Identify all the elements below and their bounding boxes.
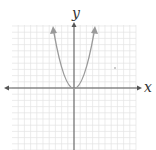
x-axis-label: x	[144, 79, 152, 95]
curve-left-arrow-icon	[50, 26, 57, 34]
curve-right-arrow-icon	[91, 26, 98, 34]
x-axis-right-arrow-icon	[137, 86, 142, 91]
y-axis-up-arrow-icon	[72, 22, 77, 27]
y-axis-label: y	[71, 5, 81, 21]
coordinate-plane: x y	[0, 0, 156, 150]
x-axis-left-arrow-icon	[4, 86, 9, 91]
annotation-dot	[114, 67, 116, 69]
